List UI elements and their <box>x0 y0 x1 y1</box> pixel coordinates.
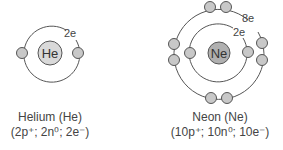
neon-outer-shell-label: 8e <box>242 12 254 24</box>
electron <box>73 48 84 59</box>
electron <box>257 38 268 49</box>
helium-symbol: He <box>42 46 59 61</box>
electron <box>222 93 233 104</box>
electron <box>205 2 216 13</box>
electron <box>243 47 254 58</box>
helium-caption: Helium (He) (2p⁺; 2n⁰; 2e⁻) <box>0 110 100 140</box>
neon-atom: Ne 8e 2e <box>169 2 268 104</box>
helium-name: Helium (He) <box>0 110 100 125</box>
helium-composition: (2p⁺; 2n⁰; 2e⁻) <box>0 125 100 140</box>
electron <box>221 2 232 13</box>
electron <box>206 93 217 104</box>
neon-symbol: Ne <box>211 46 228 61</box>
electron <box>17 48 28 59</box>
electron <box>169 39 180 50</box>
helium-atom: He 2e <box>17 26 84 82</box>
electron <box>169 55 180 66</box>
electron <box>185 48 196 59</box>
helium-shell-label: 2e <box>64 27 76 39</box>
neon-caption: Neon (Ne) (10p⁺; 10n⁰; 10e⁻) <box>160 110 280 140</box>
neon-inner-shell-label: 2e <box>233 26 245 38</box>
neon-name: Neon (Ne) <box>160 110 280 125</box>
neon-composition: (10p⁺; 10n⁰; 10e⁻) <box>160 125 280 140</box>
electron <box>257 55 268 66</box>
